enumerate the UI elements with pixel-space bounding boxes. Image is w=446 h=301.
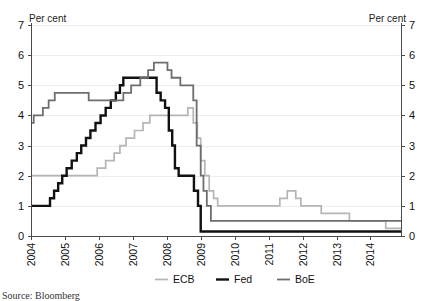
y2-axis-unit-label: Per cent bbox=[369, 13, 406, 24]
legend-label-ecb: ECB bbox=[173, 273, 195, 285]
legend-label-boe: BoE bbox=[295, 273, 315, 285]
y-tick-label: 6 bbox=[18, 49, 24, 61]
x-tick-label: 2006 bbox=[93, 243, 105, 267]
y2-tick-label: 1 bbox=[409, 200, 415, 212]
y-tick-label: 1 bbox=[18, 200, 24, 212]
interest-rate-line-chart: 01234567 01234567 2004200520062007200820… bbox=[0, 0, 446, 301]
x-tick-label: 2012 bbox=[297, 243, 309, 267]
y-axis-tick-labels: 01234567 bbox=[18, 19, 24, 242]
y2-tick-label: 4 bbox=[409, 109, 415, 121]
legend-label-fed: Fed bbox=[234, 273, 252, 285]
source-note: Source: Bloomberg bbox=[2, 290, 80, 301]
x-tick-label: 2004 bbox=[25, 243, 37, 267]
x-tick-label: 2007 bbox=[127, 243, 139, 267]
x-tick-label: 2011 bbox=[263, 243, 275, 266]
chart-container: 01234567 01234567 2004200520062007200820… bbox=[0, 0, 446, 301]
x-tick-label: 2005 bbox=[59, 243, 71, 267]
series-line-fed bbox=[31, 78, 401, 232]
y-tick-label: 5 bbox=[18, 79, 24, 91]
y-tick-label: 4 bbox=[18, 109, 24, 121]
x-tick-label: 2009 bbox=[195, 243, 207, 267]
y2-tick-label: 6 bbox=[409, 49, 415, 61]
y2-tick-label: 0 bbox=[409, 230, 415, 242]
y2-tick-label: 7 bbox=[409, 19, 415, 31]
y-tick-label: 3 bbox=[18, 140, 24, 152]
y-tick-label: 0 bbox=[18, 230, 24, 242]
gridlines bbox=[31, 26, 401, 207]
x-tick-label: 2014 bbox=[364, 243, 376, 267]
y2-tick-label: 2 bbox=[409, 170, 415, 182]
chart-legend: ECBFedBoE bbox=[155, 273, 315, 285]
x-tick-label: 2013 bbox=[331, 243, 343, 267]
series-line-ecb bbox=[31, 108, 401, 229]
y2-tick-label: 3 bbox=[409, 140, 415, 152]
y-axis-unit-label: Per cent bbox=[29, 13, 66, 24]
x-tick-label: 2010 bbox=[229, 243, 241, 267]
x-axis-tick-labels: 2004200520062007200820092010201120122013… bbox=[25, 243, 376, 267]
y2-tick-label: 5 bbox=[409, 79, 415, 91]
y-tick-label: 2 bbox=[18, 170, 24, 182]
y2-axis-tick-labels: 01234567 bbox=[409, 19, 415, 242]
y-tick-label: 7 bbox=[18, 19, 24, 31]
x-tick-label: 2008 bbox=[161, 243, 173, 267]
